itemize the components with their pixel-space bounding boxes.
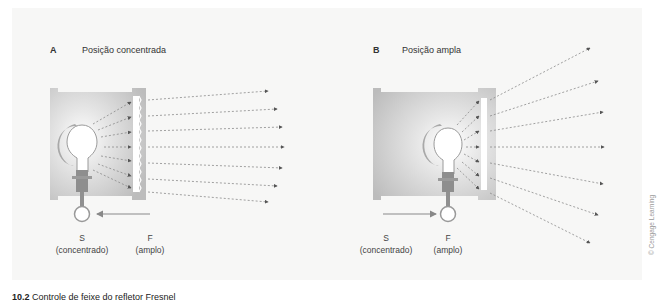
adjust-knob-b — [441, 207, 456, 222]
panel-b-title: Posição ampla — [402, 45, 461, 55]
socket-a — [76, 170, 88, 192]
figure-caption: 10.2 Controle de feixe do refletor Fresn… — [12, 292, 176, 301]
fresnel-lens-b — [481, 98, 487, 190]
panel-a-diagram — [50, 88, 284, 222]
adjust-knob-a — [75, 207, 90, 222]
housing-a — [50, 88, 146, 200]
f-sublabel: (amplo) — [408, 244, 488, 256]
f-letter: F — [110, 232, 190, 244]
f-sublabel: (amplo) — [110, 244, 190, 256]
copyright-credit: © Cengage Learning — [648, 195, 655, 255]
panel-b-letter: B — [373, 45, 380, 55]
panel-a-letter: A — [50, 45, 57, 55]
caption-text: Controle de feixe do refletor Fresnel — [32, 292, 176, 301]
panel-b-f-label: F (amplo) — [408, 232, 488, 256]
fresnel-lens-a — [133, 96, 139, 192]
caption-number: 10.2 — [12, 292, 30, 301]
panel-a-title: Posição concentrada — [82, 45, 166, 55]
f-letter: F — [408, 232, 488, 244]
panel-b-diagram — [373, 48, 604, 243]
panel-a-f-label: F (amplo) — [110, 232, 190, 256]
socket-b — [442, 172, 454, 192]
